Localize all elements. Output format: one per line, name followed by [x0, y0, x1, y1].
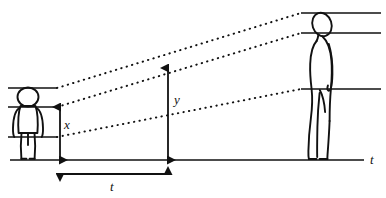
adult-neck: [317, 35, 319, 42]
time-axis-label: t: [370, 152, 374, 167]
time-span-label: t: [110, 179, 114, 194]
growth-scaling-diagram: x y t t: [0, 0, 386, 198]
child-right-leg: [35, 133, 36, 159]
adult-back-leg: [317, 93, 319, 157]
projection-lines: [57, 13, 301, 137]
adult-back-contour: [308, 41, 316, 159]
child-figure: [13, 88, 43, 159]
adult-front-leg: [327, 121, 329, 159]
adult-head: [309, 10, 334, 39]
child-head: [18, 88, 39, 107]
adult-hip-crease: [320, 90, 325, 112]
adult-height-label: y: [172, 92, 180, 107]
head-projection-line: [57, 13, 301, 88]
child-height-label: x: [63, 117, 70, 132]
child-torso: [18, 106, 37, 133]
adult-arm: [327, 44, 332, 91]
child-left-leg: [21, 133, 22, 159]
diagram-canvas: x y t t: [0, 0, 386, 198]
